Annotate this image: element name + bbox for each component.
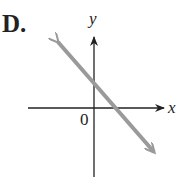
x-axis-label: x (168, 98, 176, 118)
origin-label: 0 (80, 110, 89, 130)
graph-line (58, 42, 154, 152)
option-label: D. (2, 10, 26, 38)
y-axis-label: y (89, 9, 97, 29)
